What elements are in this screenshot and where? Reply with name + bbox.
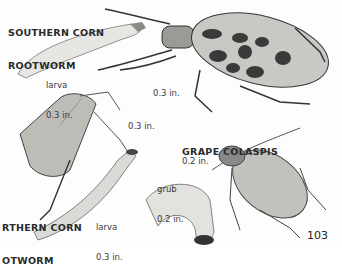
- page-number: 103: [307, 229, 328, 242]
- title-line: OTWORM: [2, 255, 82, 266]
- species-title-northern-rootworm: RTHERN CORN OTWORM: [2, 200, 82, 268]
- spotted-beetle-illustration: [98, 0, 336, 112]
- stage-size: 0.2 in.: [157, 214, 184, 224]
- caption-colaspis-adult: 0.2 in.: [182, 136, 209, 186]
- stage-size: 0.3 in.: [46, 110, 73, 120]
- stage-size: 0.3 in.: [153, 88, 180, 98]
- stage-size: 0.3 in.: [96, 252, 123, 262]
- stage-label: larva: [96, 222, 123, 232]
- caption-northern-adult: 0.3 in.: [128, 101, 155, 151]
- caption-southern-adult: 0.3 in.: [153, 68, 180, 118]
- caption-colaspis-grub: grub 0.2 in.: [157, 164, 184, 244]
- stage-size: 0.3 in.: [128, 121, 155, 131]
- title-line: SOUTHERN CORN: [8, 27, 104, 38]
- title-line: RTHERN CORN: [2, 222, 82, 233]
- stage-label: grub: [157, 184, 184, 194]
- caption-northern-larva: larva 0.3 in.: [96, 202, 123, 268]
- caption-southern-larva: larva 0.3 in.: [46, 60, 73, 140]
- stage-label: larva: [46, 80, 73, 90]
- stage-size: 0.2 in.: [182, 156, 209, 166]
